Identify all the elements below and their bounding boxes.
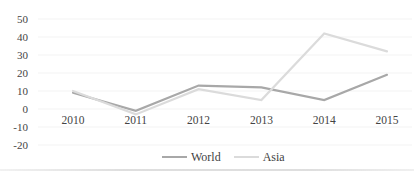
- legend-line-swatch: [162, 156, 187, 158]
- line-chart: 50403020100-10-20 2010201120122013201420…: [0, 0, 414, 173]
- world-line-series: [73, 75, 387, 111]
- legend-item-world: World: [162, 150, 221, 165]
- x-axis-tick-label: 2014: [302, 113, 346, 127]
- y-axis-tick-label: 30: [2, 48, 28, 62]
- legend-line-swatch: [234, 156, 259, 158]
- legend-label: World: [191, 150, 221, 165]
- y-axis-tick-label: -20: [2, 138, 28, 152]
- asia-line-series: [73, 33, 387, 114]
- legend-label: Asia: [263, 150, 285, 165]
- legend-item-asia: Asia: [234, 150, 285, 165]
- y-axis-tick-label: 0: [2, 102, 28, 116]
- x-axis-tick-label: 2012: [177, 113, 221, 127]
- bottom-shadow-line: [0, 169, 414, 171]
- plot-area: [0, 0, 414, 173]
- x-axis-tick-label: 2015: [365, 113, 409, 127]
- y-axis-tick-label: 50: [2, 12, 28, 26]
- y-axis-tick-label: 10: [2, 84, 28, 98]
- y-axis-tick-label: -10: [2, 120, 28, 134]
- y-axis-tick-label: 20: [2, 66, 28, 80]
- legend: WorldAsia: [162, 149, 285, 165]
- x-axis-tick-label: 2011: [114, 113, 158, 127]
- y-axis-tick-label: 40: [2, 30, 28, 44]
- x-axis-tick-label: 2013: [239, 113, 283, 127]
- x-axis-tick-label: 2010: [51, 113, 95, 127]
